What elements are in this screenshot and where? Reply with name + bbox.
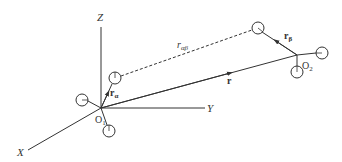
z-axis-label: Z (97, 11, 104, 23)
molecule-beta: rβ O2 (252, 22, 328, 78)
r-label: r (227, 75, 232, 86)
y-axis-label: Y (207, 102, 215, 114)
o2-label: O2 (302, 60, 313, 73)
r-alpha-label: rα (110, 87, 118, 100)
x-axis-label: X (16, 146, 25, 158)
r-beta-label: rβ (284, 30, 292, 43)
r-vector-group: r (101, 55, 297, 108)
axes: Z Y X (16, 11, 215, 158)
bond-beta-right (297, 53, 316, 55)
molecular-coordinate-diagram: Z Y X rα O1 r (0, 0, 342, 162)
r-alphabeta-group: rαβ (121, 30, 252, 76)
r-alphabeta-dashed-line (121, 30, 252, 76)
o1-label: O1 (95, 114, 106, 127)
x-axis (28, 108, 101, 150)
bond-alpha-left (88, 101, 101, 108)
r-alphabeta-label: rαβ (177, 39, 189, 52)
